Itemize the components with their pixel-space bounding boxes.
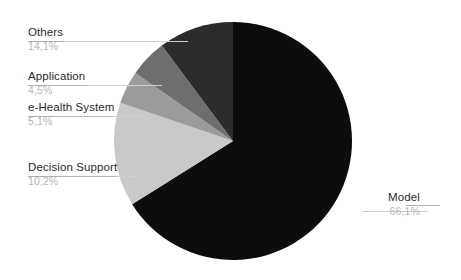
- slice-label-name: Decision Support: [28, 161, 117, 174]
- slice-label-name: e-Health System: [28, 101, 115, 114]
- pie-chart-figure: Model 66,1% Others 14,1% Application 4,5…: [0, 0, 461, 280]
- pie-slice-group: [114, 22, 352, 260]
- slice-label-e-health-system: e-Health System 5,1%: [28, 101, 115, 128]
- slice-label-percent: 66,1%: [388, 205, 420, 218]
- slice-label-application: Application 4,5%: [28, 70, 85, 97]
- pie-chart-canvas: [0, 0, 461, 280]
- slice-label-percent: 4,5%: [28, 84, 85, 97]
- slice-label-name: Others: [28, 26, 63, 39]
- slice-label-others: Others 14,1%: [28, 26, 63, 53]
- slice-label-percent: 14,1%: [28, 40, 63, 53]
- slice-label-percent: 5,1%: [28, 115, 115, 128]
- slice-label-decision-support: Decision Support 10,2%: [28, 161, 117, 188]
- slice-label-name: Model: [388, 191, 420, 204]
- slice-label-model: Model 66,1%: [388, 191, 420, 218]
- slice-label-percent: 10,2%: [28, 175, 117, 188]
- slice-label-name: Application: [28, 70, 85, 83]
